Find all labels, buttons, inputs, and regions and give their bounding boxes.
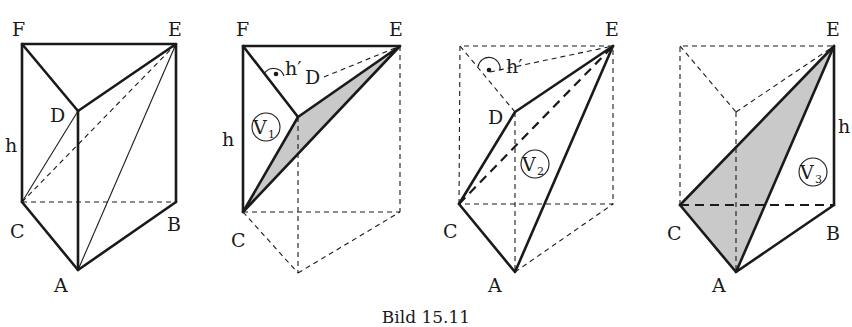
prism-decomposition-diagram: F E D h C B A F E h′ D h C V 1 xyxy=(0,0,852,327)
vertex-label-D: D xyxy=(488,106,503,128)
volume-index: 2 xyxy=(537,165,544,178)
vertex-label-E: E xyxy=(826,18,840,40)
height-label-h: h xyxy=(222,128,234,150)
figure-prism: F E D h C B A xyxy=(5,18,182,296)
vertex-label-F: F xyxy=(12,18,25,40)
right-angle-dot xyxy=(487,68,492,73)
volume-label: V xyxy=(799,161,814,183)
vertex-label-C: C xyxy=(231,229,246,251)
edge-FD-hidden xyxy=(680,46,736,112)
volume-index: 1 xyxy=(268,128,275,141)
edge-AB-hidden xyxy=(298,212,400,273)
volume-label: V xyxy=(521,153,536,175)
vertex-label-D: D xyxy=(50,104,65,126)
vertex-label-D: D xyxy=(305,66,320,88)
height-label-h: h xyxy=(838,115,850,137)
edge-CA-hidden xyxy=(243,212,298,273)
edge-FD xyxy=(22,44,78,111)
vertex-label-A: A xyxy=(53,274,68,296)
vertex-label-F: F xyxy=(236,18,249,40)
volume-badge-v3: V 3 xyxy=(799,158,827,186)
volume-index: 3 xyxy=(815,173,822,186)
shaded-face-CEA xyxy=(680,46,834,272)
volume-badge-v2: V 2 xyxy=(521,150,549,178)
vertex-label-E: E xyxy=(389,18,403,40)
figure-pyramid-v1: F E h′ D h C V 1 xyxy=(222,18,403,273)
right-angle-dot xyxy=(274,72,279,77)
vertex-label-C: C xyxy=(443,220,458,242)
vertex-label-E: E xyxy=(605,18,619,40)
vertex-label-B: B xyxy=(826,222,840,244)
vertex-label-B: B xyxy=(167,213,181,235)
vertex-label-A: A xyxy=(487,274,502,296)
edges-C-A-B xyxy=(22,202,176,270)
edge-CE-hidden xyxy=(22,44,176,202)
vertex-label-C: C xyxy=(10,220,25,242)
vertex-label-C: C xyxy=(667,222,682,244)
volume-badge-v1: V 1 xyxy=(252,113,280,141)
edge-CE-hidden xyxy=(459,46,613,204)
edges-C-A-E xyxy=(459,46,613,272)
vertex-label-E: E xyxy=(168,18,182,40)
altitude-label-h-prime: h′ xyxy=(506,55,523,77)
figure-pyramid-v3: E h C B A V 3 xyxy=(667,18,850,296)
figure-caption: Bild 15.11 xyxy=(382,307,470,327)
altitude-label-h-prime: h′ xyxy=(285,57,302,79)
figure-pyramid-v2: E h′ D C A V 2 xyxy=(443,18,619,296)
vertex-label-A: A xyxy=(711,274,726,296)
volume-label: V xyxy=(252,116,267,138)
height-label-h: h xyxy=(5,134,17,156)
